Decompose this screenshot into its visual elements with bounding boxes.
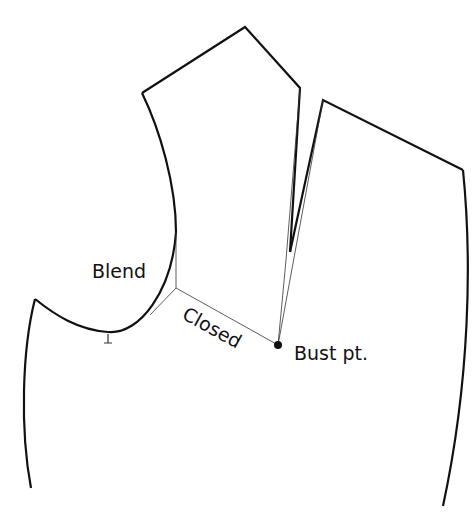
armhole-blend-curve — [35, 232, 176, 332]
right-dart-and-shoulder-outline — [290, 100, 463, 252]
bust-point-dot — [274, 341, 282, 349]
pattern-diagram: Blend Closed Bust pt. — [0, 0, 475, 516]
right-center-seam — [443, 170, 468, 506]
closed-label: Closed — [179, 302, 245, 352]
dart-guide-right — [278, 100, 323, 345]
notch-mark — [104, 334, 112, 343]
blend-label: Blend — [92, 260, 146, 282]
armhole-upper-curve — [142, 93, 176, 232]
left-side-seam — [24, 299, 35, 488]
left-shoulder-and-dart-outline — [142, 27, 300, 252]
bust-point-label: Bust pt. — [294, 342, 368, 364]
